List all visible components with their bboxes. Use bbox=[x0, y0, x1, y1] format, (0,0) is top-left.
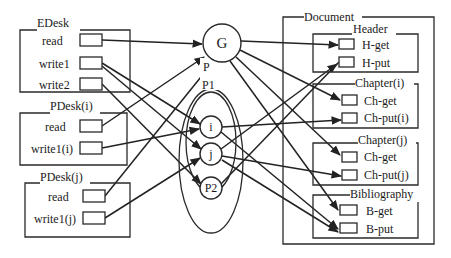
b-get-label: B-get bbox=[366, 204, 393, 218]
chi-put-label: Ch-put(i) bbox=[364, 111, 409, 125]
chi-get-port[interactable] bbox=[342, 95, 357, 105]
edge-pdeskj-write-to-j bbox=[105, 158, 200, 218]
pdesk-i-write-port[interactable] bbox=[80, 142, 102, 154]
edesk-write2-label: write2 bbox=[39, 78, 70, 92]
diagram-canvas: EDesk read write1 write2 PDesk(i) read w… bbox=[0, 0, 451, 258]
h-get-port[interactable] bbox=[339, 39, 354, 49]
node-j-label: j bbox=[208, 147, 212, 161]
chi-put-port[interactable] bbox=[342, 113, 357, 123]
header-title: Header bbox=[353, 22, 388, 36]
h-put-label: H-put bbox=[362, 56, 391, 70]
center-group: P P1 G i j P2 bbox=[179, 24, 243, 233]
node-G-label: G bbox=[217, 35, 228, 51]
edesk-read-port[interactable] bbox=[80, 34, 102, 46]
pdesk-i-read-port[interactable] bbox=[80, 120, 102, 132]
chj-put-port[interactable] bbox=[342, 170, 357, 180]
edesk-write1-label: write1 bbox=[39, 57, 70, 71]
edge-G-to-h-get bbox=[241, 41, 338, 45]
edge-edesk-read-to-G bbox=[102, 40, 202, 44]
b-get-port[interactable] bbox=[340, 205, 357, 215]
chapter-i-title: Chapter(i) bbox=[355, 76, 404, 90]
edges bbox=[102, 40, 341, 232]
chj-put-label: Ch-put(j) bbox=[364, 168, 409, 182]
h-put-port[interactable] bbox=[339, 57, 354, 67]
edesk-title: EDesk bbox=[37, 16, 69, 30]
edge-j-to-chj-put bbox=[222, 156, 341, 176]
chj-get-port[interactable] bbox=[342, 152, 357, 162]
pdesk-j-write-port[interactable] bbox=[83, 212, 105, 224]
edesk-frame bbox=[20, 30, 130, 92]
group-P-label: P bbox=[203, 60, 210, 74]
pdesk-i-write-label: write1(i) bbox=[31, 142, 73, 156]
h-get-label: H-get bbox=[362, 38, 390, 52]
pdesk-i-group: PDesk(i) read write1(i) bbox=[20, 99, 127, 165]
document-group: Document Header H-get H-put Chapter(i) C… bbox=[283, 10, 434, 244]
pdesk-j-read-label: read bbox=[48, 190, 69, 204]
chapter-j-title: Chapter(j) bbox=[358, 133, 407, 147]
chj-get-label: Ch-get bbox=[364, 150, 397, 164]
edesk-group: EDesk read write1 write2 bbox=[20, 16, 130, 92]
document-title: Document bbox=[304, 10, 355, 24]
edesk-write1-port[interactable] bbox=[80, 57, 102, 69]
node-P2-label: P2 bbox=[205, 181, 218, 195]
pdesk-j-read-port[interactable] bbox=[83, 190, 105, 202]
edesk-read-label: read bbox=[42, 34, 63, 48]
chi-get-label: Ch-get bbox=[364, 94, 397, 108]
b-put-label: B-put bbox=[366, 222, 394, 236]
edge-i-to-b-put bbox=[221, 132, 338, 229]
pdesk-j-frame bbox=[25, 183, 130, 237]
pdesk-j-write-label: write1(j) bbox=[34, 212, 76, 226]
bibliography-title: Bibliography bbox=[350, 187, 413, 201]
edesk-write2-port[interactable] bbox=[80, 78, 102, 90]
group-P1-label: P1 bbox=[202, 78, 215, 92]
pdesk-j-group: PDesk(j) read write1(j) bbox=[25, 170, 130, 237]
b-put-port[interactable] bbox=[340, 223, 357, 233]
pdesk-j-title: PDesk(j) bbox=[40, 170, 83, 184]
pdesk-i-title: PDesk(i) bbox=[50, 99, 93, 113]
pdesk-i-read-label: read bbox=[45, 120, 66, 134]
document-frame bbox=[283, 17, 434, 244]
